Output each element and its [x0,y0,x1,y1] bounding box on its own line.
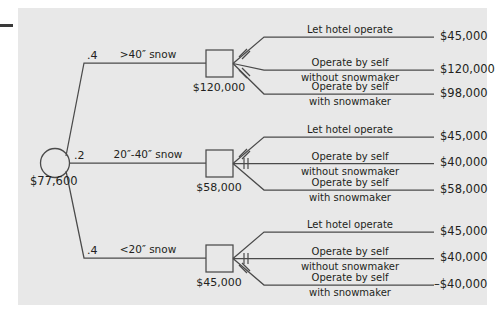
option-label-3-3: Operate by self [312,273,389,283]
payoff-2-3: $58,000 [440,184,488,196]
payoff-3-1: $45,000 [440,226,488,238]
option-sublabel-2-2: without snowmaker [301,167,399,177]
decision-node-value-1: $120,000 [193,82,246,93]
payoff-3-3: –$40,000 [434,279,487,291]
option-label-2-2: Operate by self [312,152,389,162]
branch-line-1 [66,63,206,156]
option-sublabel-3-2: without snowmaker [301,262,399,272]
option-label-3-2: Operate by self [312,247,389,257]
option-label-1-3: Operate by self [312,82,389,92]
decision-tree-diagram: $77,600 .4 .2 .4 >40″ snow 20″-40″ snow … [0,0,500,321]
probability-3: .4 [87,245,98,256]
decision-square-3 [206,245,233,272]
probability-1: .4 [87,50,98,61]
payoff-2-1: $45,000 [440,131,488,143]
option-label-2-1: Let hotel operate [307,125,393,135]
decision-square-1 [206,50,233,77]
option-sublabel-1-3: with snowmaker [309,97,391,107]
option-label-3-1: Let hotel operate [307,220,393,230]
decision-node-value-3: $45,000 [196,277,242,288]
option-label-2-3: Operate by self [312,178,389,188]
prune-mark-1-3 [239,68,250,78]
option-sublabel-2-3: with snowmaker [309,193,391,203]
decision-node-value-2: $58,000 [196,182,242,193]
payoff-3-2: $40,000 [440,252,488,264]
payoff-1-2: $120,000 [440,64,495,76]
payoff-1-3: $98,000 [440,88,488,100]
option-sublabel-3-3: with snowmaker [309,288,391,298]
payoff-1-1: $45,000 [440,31,488,43]
option-label-1-2: Operate by self [312,58,389,68]
option-label-1-1: Let hotel operate [307,25,393,35]
probability-2: .2 [74,150,85,161]
branch-condition-3: <20″ snow [120,244,177,255]
branch-condition-1: >40″ snow [120,49,177,60]
root-node-value: $77,600 [30,176,78,188]
payoff-2-2: $40,000 [440,157,488,169]
branch-condition-2: 20″-40″ snow [114,149,183,160]
decision-square-2 [206,150,233,177]
